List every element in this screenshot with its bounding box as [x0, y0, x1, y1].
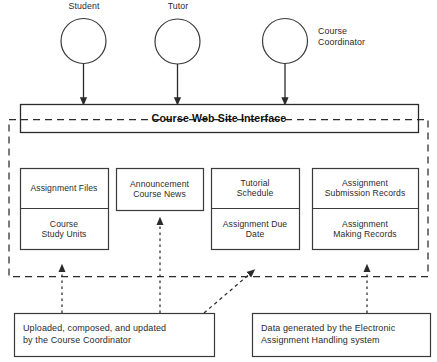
note-label-coordinator: Uploaded, composed, and updated by the C… [23, 323, 209, 346]
cell-label-assignment-files: Assignment Files [20, 168, 108, 208]
actor-label-student: Student [59, 1, 109, 12]
interface-bar-label: Course Web Site Interface [20, 104, 418, 132]
arrow-note-coordinator-to-schedule [204, 272, 252, 313]
cell-label-course-study-units: Course Study Units [20, 209, 108, 249]
cell-label-assignment-making-records: Assignment Making Records [312, 209, 418, 249]
actor-label-course-coordinator: Course Coordinator [318, 26, 408, 47]
actor-shapes [61, 19, 308, 65]
use-case-diagram: Student Tutor Course Coordinator Course … [0, 0, 437, 362]
actor-flow-arrows [84, 64, 286, 102]
actor-label-tutor: Tutor [153, 1, 203, 12]
cell-label-assignment-submission-records: Assignment Submission Records [312, 168, 418, 208]
actor-circle-tutor [155, 19, 200, 64]
actor-circle-student [61, 19, 106, 64]
actor-circle-course-coordinator [263, 19, 308, 64]
cell-label-assignment-due-date: Assignment Due Date [211, 209, 299, 249]
cell-label-tutorial-schedule: Tutorial Schedule [211, 168, 299, 208]
note-label-eah-system: Data generated by the Electronic Assignm… [261, 323, 426, 346]
cell-label-announcement-course-news: Announcement Course News [116, 168, 203, 210]
